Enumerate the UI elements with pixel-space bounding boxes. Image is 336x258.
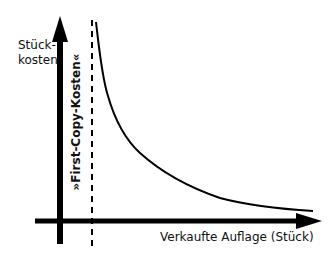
first-copy-costs-label: »First-Copy-Kosten« xyxy=(69,54,83,191)
x-axis-arrow-icon xyxy=(296,213,322,229)
unit-cost-curve xyxy=(96,22,313,211)
y-axis-label: Stück- kosten xyxy=(18,38,58,68)
x-axis-label: Verkaufte Auflage (Stück) xyxy=(160,230,314,244)
